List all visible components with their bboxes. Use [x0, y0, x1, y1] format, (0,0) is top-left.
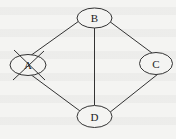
node-d-label: D	[91, 111, 99, 123]
edge-c-d	[109, 74, 158, 113]
edge-a-d	[30, 74, 80, 111]
graph-svg: A B C D	[0, 0, 176, 139]
node-c-label: C	[152, 58, 159, 70]
edge-b-c	[109, 21, 152, 53]
edge-a-b	[30, 21, 79, 56]
graph-diagram: A B C D	[0, 0, 176, 139]
node-b-label: B	[91, 12, 98, 24]
